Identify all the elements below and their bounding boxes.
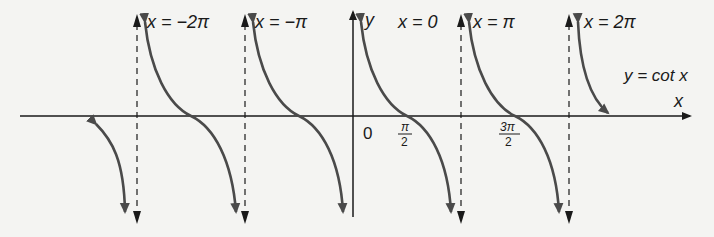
branch-left-partial (96, 124, 125, 212)
x-axis-label: x (673, 91, 684, 111)
tick-label-half-pi: π 2 (398, 120, 412, 149)
branch-zero-pi (361, 22, 451, 212)
asymptote-label-2pi: x = 2π (583, 12, 637, 32)
svg-text:2: 2 (505, 135, 512, 149)
branch-pi-2pi (469, 22, 559, 212)
y-axis-label: y (363, 10, 375, 30)
tick-label-three-half-pi: 3π 2 (499, 120, 520, 149)
svg-text:2: 2 (401, 135, 408, 149)
graph-canvas: x = −2π x = −π y x = 0 x = π x = 2π y = … (0, 0, 714, 237)
asymptote-label-negpi: x = −π (254, 12, 308, 32)
branch-right-partial (578, 22, 608, 113)
cot-curve (96, 22, 608, 212)
curve-label: y = cot x (623, 66, 688, 85)
cot-graph: x = −2π x = −π y x = 0 x = π x = 2π y = … (0, 0, 714, 237)
asymptote-label-neg2pi: x = −2π (146, 12, 210, 32)
asymptote-label-pi: x = π (472, 12, 516, 32)
svg-text:3π: 3π (500, 120, 516, 134)
branch-neg2pi-negpi (145, 22, 236, 212)
origin-label: 0 (363, 124, 372, 143)
branch-negpi-zero (253, 22, 343, 212)
asymptote-label-zero: x = 0 (397, 12, 438, 32)
svg-text:π: π (401, 120, 410, 134)
